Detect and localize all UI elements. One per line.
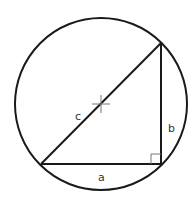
diagram-canvas: c b a — [0, 0, 196, 197]
label-b: b — [168, 122, 175, 135]
label-a: a — [98, 171, 105, 184]
label-c: c — [75, 110, 81, 123]
right-angle-marker-icon — [151, 154, 161, 164]
